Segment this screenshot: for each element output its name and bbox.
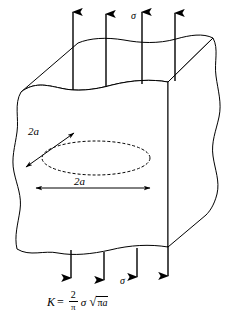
radical-sign-icon: √ [89, 295, 96, 308]
sigma-bottom-label: σ [120, 276, 125, 286]
crack-block-diagram [0, 0, 242, 321]
radicand-a: a [102, 297, 107, 308]
formula-denominator: π [69, 301, 78, 312]
stress-intensity-formula: K = 2 π σ √ πa [47, 291, 108, 313]
formula-equals: = [57, 295, 64, 310]
figure-root: σ σ 2a 2a K = 2 π σ √ πa [0, 0, 242, 321]
dim-major-label: 2a [74, 176, 85, 187]
formula-numerator: 2 [69, 290, 78, 301]
block-front-face [13, 80, 168, 254]
formula-sigma: σ [81, 296, 86, 308]
formula-radical: √ πa [89, 296, 108, 309]
formula-radicand: πa [96, 296, 108, 309]
sigma-top-label: σ [131, 11, 136, 21]
formula-lhs-k: K [47, 295, 55, 310]
formula-fraction: 2 π [69, 290, 78, 312]
solid-block [13, 35, 220, 254]
dim-minor-label: 2a [28, 126, 39, 137]
